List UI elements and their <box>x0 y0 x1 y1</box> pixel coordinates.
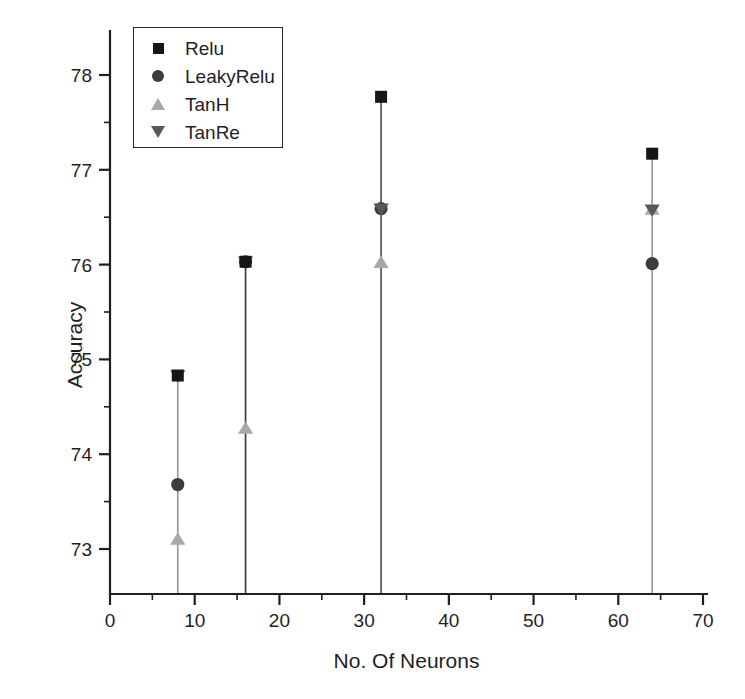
legend-label-leakyrelu: LeakyRelu <box>185 67 275 86</box>
point-tanh-x8 <box>170 532 185 544</box>
data-points-group <box>170 91 660 545</box>
tick-labels-group: 010203040506070737475767778 <box>71 65 714 631</box>
legend-item-relu: Relu <box>134 34 282 62</box>
axis-titles-group: No. Of Neurons <box>334 649 480 672</box>
legend-label-relu: Relu <box>185 39 224 58</box>
y-tick-label-73: 73 <box>71 539 92 560</box>
scatter-plot-figure: 010203040506070737475767778 No. Of Neuro… <box>0 0 745 699</box>
y-tick-label-75: 75 <box>71 349 92 370</box>
x-tick-label-30: 30 <box>354 610 375 631</box>
tanh-marker-icon <box>145 98 171 110</box>
tanre-marker-icon <box>145 126 171 138</box>
legend-item-tanh: TanH <box>134 90 282 118</box>
legend-item-tanre: TanRe <box>134 118 282 146</box>
leakyrelu-marker-icon <box>145 70 171 82</box>
x-tick-label-40: 40 <box>438 610 459 631</box>
point-leakyrelu-x64 <box>646 257 659 270</box>
legend-label-tanh: TanH <box>185 95 229 114</box>
y-tick-label-74: 74 <box>71 444 93 465</box>
x-tick-label-10: 10 <box>184 610 205 631</box>
point-leakyrelu-x8 <box>171 478 184 491</box>
legend: Relu LeakyRelu TanH TanRe <box>133 27 283 148</box>
x-tick-label-20: 20 <box>269 610 290 631</box>
point-tanh-x16 <box>238 421 253 433</box>
point-tanh-x32 <box>373 256 388 268</box>
y-tick-label-78: 78 <box>71 65 92 86</box>
y-tick-label-76: 76 <box>71 255 92 276</box>
point-relu-x16 <box>240 256 252 268</box>
stem-lines-group <box>178 97 652 594</box>
relu-marker-icon <box>145 43 171 54</box>
point-tanre-x64 <box>645 204 660 216</box>
point-relu-x64 <box>646 148 658 160</box>
x-tick-label-50: 50 <box>523 610 544 631</box>
x-tick-label-60: 60 <box>608 610 629 631</box>
x-tick-label-70: 70 <box>692 610 713 631</box>
tick-marks-group <box>99 75 703 605</box>
point-relu-x8 <box>172 370 184 382</box>
legend-item-leakyrelu: LeakyRelu <box>134 62 282 90</box>
point-relu-x32 <box>375 91 387 103</box>
x-tick-label-0: 0 <box>105 610 116 631</box>
x-axis-title: No. Of Neurons <box>334 649 480 672</box>
plot-canvas: 010203040506070737475767778 No. Of Neuro… <box>0 0 745 699</box>
legend-label-tanre: TanRe <box>185 123 240 142</box>
y-tick-label-77: 77 <box>71 160 92 181</box>
